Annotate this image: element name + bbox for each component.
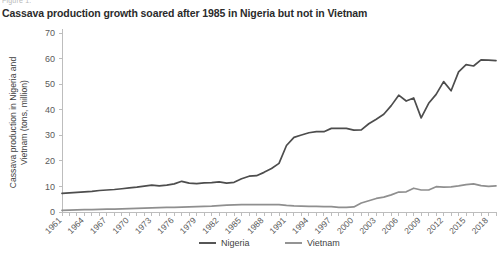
x-tick-label: 1973 <box>133 215 154 236</box>
x-tick-label: 1997 <box>312 215 333 236</box>
line-chart: 010203040506070 196119641967197019731976… <box>0 22 502 258</box>
x-tick-label: 1988 <box>245 215 266 236</box>
y-tick-label: 40 <box>45 105 55 115</box>
x-tick-label: 2015 <box>447 215 468 236</box>
x-tick-label: 1967 <box>88 215 109 236</box>
legend-label-nigeria: Nigeria <box>221 238 250 248</box>
legend-label-vietnam: Vietnam <box>307 238 340 248</box>
y-tick-label: 10 <box>45 182 55 192</box>
y-tick-label: 70 <box>45 28 55 38</box>
y-axis-title-line: Cassava production in Nigeria and <box>8 57 18 189</box>
x-tick-label: 1991 <box>267 215 288 236</box>
x-tick-label: 2009 <box>402 215 423 236</box>
y-tick-label: 60 <box>45 54 55 64</box>
y-tick-label: 0 <box>50 207 55 217</box>
x-axis: 1961196419671970197319761979198219851988… <box>43 212 496 236</box>
chart-figure: 010203040506070 196119641967197019731976… <box>0 22 502 258</box>
y-tick-label: 30 <box>45 130 55 140</box>
y-axis-title-line: Vietnam (tons, million) <box>19 80 29 165</box>
x-tick-label: 2018 <box>469 215 490 236</box>
y-tick-label: 50 <box>45 79 55 89</box>
chart-title: Cassava production growth soared after 1… <box>2 7 367 19</box>
x-tick-label: 1979 <box>178 215 199 236</box>
x-tick-label: 2006 <box>380 215 401 236</box>
x-tick-label: 1994 <box>290 215 311 236</box>
x-tick-label: 1976 <box>155 215 176 236</box>
x-tick-label: 1970 <box>110 215 131 236</box>
figure-kicker: Figure 1. <box>2 0 31 5</box>
x-tick-label: 1982 <box>200 215 221 236</box>
x-tick-label: 2003 <box>357 215 378 236</box>
x-tick-label: 2012 <box>425 215 446 236</box>
chart-legend: NigeriaVietnam <box>199 238 340 248</box>
y-tick-label: 20 <box>45 156 55 166</box>
x-tick-label: 1964 <box>65 215 86 236</box>
y-axis-title: Cassava production in Nigeria andVietnam… <box>8 57 29 189</box>
x-tick-label: 1985 <box>223 215 244 236</box>
series-lines <box>62 60 496 211</box>
y-axis: 010203040506070 <box>45 28 62 217</box>
x-tick-label: 2000 <box>335 215 356 236</box>
x-tick-label: 1961 <box>43 215 64 236</box>
series-line-nigeria <box>62 60 496 193</box>
